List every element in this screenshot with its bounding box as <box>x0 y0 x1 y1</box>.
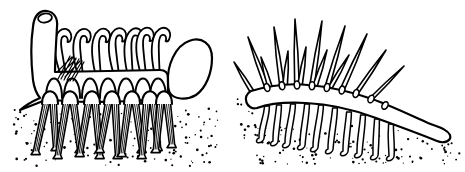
line-drawing <box>0 0 465 172</box>
stipple-dot <box>203 121 205 123</box>
stipple-dot <box>450 152 452 154</box>
stipple-dot <box>324 132 326 134</box>
stipple-dot <box>17 118 19 120</box>
stipple-dot <box>148 140 149 141</box>
stipple-dot <box>93 143 95 145</box>
stipple-dot <box>259 158 261 160</box>
stipple-dot <box>443 148 444 149</box>
stipple-dot <box>256 154 258 156</box>
stipple-dot <box>33 120 34 121</box>
stipple-dot <box>15 158 18 161</box>
stipple-dot <box>185 142 187 144</box>
stipple-dot <box>363 148 365 150</box>
stipple-dot <box>177 116 178 117</box>
stipple-dot <box>21 127 22 128</box>
stipple-dot <box>397 157 400 160</box>
stipple-dot <box>191 161 192 162</box>
stipple-dot <box>118 164 120 166</box>
stipple-dot <box>214 146 216 148</box>
stipple-dot <box>210 135 212 137</box>
stipple-dot <box>447 143 449 145</box>
stipple-dot <box>185 110 187 112</box>
stipple-dot <box>170 159 171 160</box>
stipple-dot <box>208 107 211 110</box>
illustration-canvas <box>0 0 465 172</box>
stipple-dot <box>362 158 364 160</box>
stipple-dot <box>302 156 304 158</box>
stipple-dot <box>130 131 132 133</box>
stipple-dot <box>33 130 35 132</box>
spine-base-oval <box>309 82 315 90</box>
stipple-dot <box>367 152 369 154</box>
stipple-dot <box>451 142 453 144</box>
stipple-dot <box>154 158 156 160</box>
stipple-dot <box>268 141 270 143</box>
stipple-dot <box>352 161 355 164</box>
stipple-dot <box>208 161 211 164</box>
stipple-dot <box>422 140 424 142</box>
stipple-dot <box>24 159 26 161</box>
stipple-dot <box>87 155 89 157</box>
stipple-dot <box>444 151 447 154</box>
stipple-dot <box>293 129 294 130</box>
stipple-dot <box>293 147 296 150</box>
stipple-dot <box>358 163 360 165</box>
stipple-dot <box>364 162 366 164</box>
stipple-dot <box>198 116 200 118</box>
stipple-dot <box>261 159 264 162</box>
stipple-dot <box>350 143 351 144</box>
stipple-dot <box>44 146 45 147</box>
stipple-dot <box>109 139 112 142</box>
stipple-dot <box>294 140 296 142</box>
spine-base-oval <box>294 81 300 89</box>
stipple-dot <box>217 120 218 121</box>
stipple-dot <box>169 151 171 153</box>
stipple-dot <box>251 112 253 114</box>
stipple-dot <box>442 159 444 161</box>
stipple-dot <box>180 155 182 157</box>
stipple-dot <box>248 111 249 112</box>
socket <box>42 91 58 104</box>
stipple-dot <box>207 137 208 138</box>
stipple-dot <box>419 157 421 159</box>
stipple-dot <box>247 125 250 128</box>
stipple-dot <box>244 137 246 139</box>
stipple-dot <box>281 129 283 131</box>
stipple-dot <box>206 152 208 154</box>
stipple-dot <box>55 159 56 160</box>
stipple-dot <box>46 142 48 144</box>
stipple-dot <box>313 158 315 160</box>
stipple-dot <box>375 160 377 162</box>
stipple-dot <box>63 146 66 149</box>
stipple-dot <box>352 158 353 159</box>
stipple-dot <box>15 132 18 135</box>
stipple-dot <box>259 162 261 164</box>
stipple-dot <box>172 152 175 155</box>
stipple-dot <box>196 148 199 151</box>
stipple-dot <box>400 148 402 150</box>
stipple-dot <box>216 111 218 113</box>
stipple-dot <box>200 130 202 132</box>
stipple-dot <box>256 134 258 136</box>
stipple-dot <box>26 142 29 145</box>
stilt-legs <box>31 100 176 159</box>
stipple-dot <box>255 126 257 128</box>
stipple-dot <box>105 164 106 165</box>
stipple-dot <box>195 134 197 136</box>
stipple-dot <box>412 161 414 163</box>
stipple-dot <box>403 163 404 164</box>
stipple-dot <box>203 161 205 163</box>
stipple-dot <box>350 146 352 148</box>
stipple-dot <box>441 145 443 147</box>
stipple-dot <box>215 126 216 127</box>
stipple-dot <box>243 134 245 136</box>
stipple-dot <box>216 144 217 145</box>
stipple-dot <box>171 164 173 166</box>
socket <box>62 91 78 104</box>
stipple-dot <box>186 142 188 144</box>
stipple-dot <box>337 134 338 135</box>
stipple-dot <box>407 138 409 140</box>
stipple-dot <box>282 149 284 151</box>
stipple-dot <box>179 121 181 123</box>
stipple-dot <box>369 144 371 146</box>
